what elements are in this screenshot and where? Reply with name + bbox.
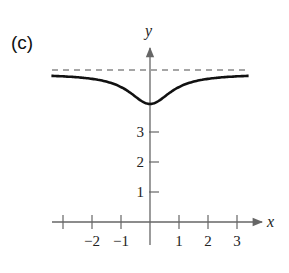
- x-tick-label: 3: [233, 233, 241, 249]
- y-tick-label: 3: [137, 124, 145, 140]
- y-tick-label: 2: [137, 154, 145, 170]
- x-axis-label: x: [266, 213, 274, 230]
- x-tick-label: 1: [175, 233, 183, 249]
- y-tick-label: 1: [137, 184, 145, 200]
- chart: −2−1123123 x y: [0, 0, 289, 273]
- tick-labels: −2−1123123: [84, 124, 241, 249]
- x-tick-label: −1: [113, 233, 129, 249]
- x-tick-label: 2: [204, 233, 212, 249]
- x-tick-label: −2: [84, 233, 100, 249]
- y-axis-label: y: [143, 22, 153, 40]
